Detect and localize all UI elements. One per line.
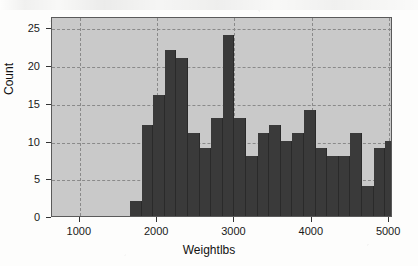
x-tick-mark-2000 <box>156 217 157 222</box>
x-tick-label-4000: 4000 <box>286 226 336 237</box>
x-axis-label: Weightlbs <box>0 243 418 257</box>
x-tick-label-1000: 1000 <box>54 226 104 237</box>
y-axis-label: Count <box>2 63 16 95</box>
x-tick-mark-1000 <box>79 217 80 222</box>
x-tick-label-5000: 5000 <box>363 226 413 237</box>
x-tick-mark-4000 <box>311 217 312 222</box>
x-tick-mark-3000 <box>233 217 234 222</box>
x-tick-label-3000: 3000 <box>208 226 258 237</box>
x-tick-mark-5000 <box>388 217 389 222</box>
histogram-figure: 0510152025 10002000300040005000 Count We… <box>0 0 418 266</box>
x-tick-label-2000: 2000 <box>131 226 181 237</box>
x-axis-ticks: 10002000300040005000 <box>0 0 418 266</box>
